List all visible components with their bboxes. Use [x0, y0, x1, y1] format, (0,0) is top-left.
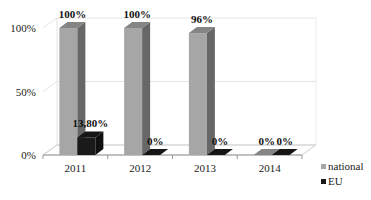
gridline-side — [43, 82, 57, 92]
data-label: 0% — [276, 135, 293, 147]
x-tick-label: 2013 — [194, 162, 217, 174]
y-tick-label: 100% — [10, 22, 36, 34]
data-label: 13,80% — [73, 117, 109, 129]
bar-chart: 0%50%100% 100%13,80%100%0%96%0%0%0% 2011… — [0, 0, 371, 200]
legend: nationalEU — [321, 160, 363, 187]
data-label: 0% — [147, 135, 164, 147]
y-tick-label: 50% — [16, 86, 36, 98]
legend-label-EU: EU — [328, 175, 343, 187]
x-axis-ticks: 2011201220132014 — [65, 162, 282, 174]
data-labels: 100%13,80%100%0%96%0%0%0% — [59, 8, 293, 147]
data-label: 100% — [59, 8, 87, 20]
x-tick-label: 2011 — [65, 162, 87, 174]
bar-EU-2011 — [77, 131, 103, 155]
x-tick-label: 2014 — [259, 162, 282, 174]
x-tick-label: 2012 — [129, 162, 151, 174]
legend-label-national: national — [328, 160, 363, 172]
data-label: 100% — [123, 8, 151, 20]
y-axis-ticks: 0%50%100% — [10, 22, 36, 161]
data-label: 0% — [258, 135, 275, 147]
data-label: 0% — [212, 135, 229, 147]
data-label: 96% — [191, 13, 213, 25]
legend-swatch-national — [321, 164, 326, 169]
legend-swatch-EU — [321, 179, 326, 184]
gridline-side — [43, 18, 57, 28]
y-tick-label: 0% — [21, 149, 36, 161]
